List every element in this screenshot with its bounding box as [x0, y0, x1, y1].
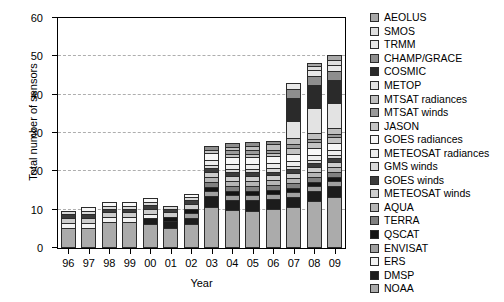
bar-segment[interactable]	[204, 207, 219, 248]
legend-item-label: MTSAT winds	[384, 107, 448, 118]
legend-item[interactable]: CHAMP/GRACE	[370, 52, 504, 66]
bar-segment[interactable]	[225, 210, 240, 248]
legend-item[interactable]: TRMM	[370, 38, 504, 52]
bar-segment[interactable]	[225, 157, 240, 164]
bar-segment[interactable]	[266, 199, 281, 209]
legend-swatch-icon	[370, 189, 379, 198]
x-tick	[150, 248, 151, 254]
bar-column[interactable]	[122, 18, 137, 248]
legend-item[interactable]: JASON	[370, 119, 504, 133]
bar-segment[interactable]	[327, 71, 342, 80]
legend-item-label: METEOSAT radiances	[384, 148, 489, 159]
x-tick-label: 06	[267, 257, 279, 269]
legend-item-label: CHAMP/GRACE	[384, 53, 462, 64]
bar-segment[interactable]	[286, 207, 301, 248]
plot-area: 0102030405060 96979899000102030405060708…	[57, 17, 346, 249]
bar-column[interactable]	[184, 18, 199, 248]
bar-segment[interactable]	[286, 121, 301, 138]
bar-segment[interactable]	[266, 209, 281, 248]
y-tick-label: 20	[31, 165, 43, 177]
bar-segment[interactable]	[307, 148, 322, 155]
bar-segment[interactable]	[327, 186, 342, 196]
legend-item[interactable]: GOES radiances	[370, 133, 504, 147]
bar-segment[interactable]	[307, 201, 322, 248]
legend-item[interactable]: METEOSAT winds	[370, 187, 504, 201]
x-tick-label: 09	[329, 257, 341, 269]
legend-item-label: SMOS	[384, 26, 415, 37]
y-tick-label: 10	[31, 204, 43, 216]
bar-segment[interactable]	[184, 224, 199, 248]
bar-column[interactable]	[327, 18, 342, 248]
bar-segment[interactable]	[286, 98, 301, 121]
legend-item[interactable]: COSMIC	[370, 65, 504, 79]
bar-segment[interactable]	[327, 80, 342, 103]
bar-segment[interactable]	[327, 197, 342, 248]
legend-swatch-icon	[370, 40, 379, 49]
x-tick-label: 04	[226, 257, 238, 269]
bar-segment[interactable]	[286, 197, 301, 207]
bar-column[interactable]	[266, 18, 281, 248]
legend-swatch-icon	[370, 230, 379, 239]
bar-segment[interactable]	[307, 76, 322, 85]
bar-segment[interactable]	[102, 222, 117, 248]
x-tick-label: 97	[83, 257, 95, 269]
bar-column[interactable]	[143, 18, 158, 248]
bar-segment[interactable]	[286, 89, 301, 98]
bar-column[interactable]	[245, 18, 260, 248]
legend-item[interactable]: NOAA	[370, 282, 504, 296]
legend-item[interactable]: MTSAT winds	[370, 106, 504, 120]
bar-segment[interactable]	[245, 211, 260, 249]
bar-segment[interactable]	[143, 224, 158, 248]
legend-item[interactable]: ERS	[370, 255, 504, 269]
legend-swatch-icon	[370, 54, 379, 63]
bar-segment[interactable]	[225, 200, 240, 210]
legend-item[interactable]: METOP	[370, 79, 504, 93]
legend-item[interactable]: AEOLUS	[370, 11, 504, 25]
bar-segment[interactable]	[61, 228, 76, 248]
bar-column[interactable]	[163, 18, 178, 248]
legend-item[interactable]: ENVISAT	[370, 241, 504, 255]
bar-segment[interactable]	[204, 196, 219, 206]
legend-item[interactable]: MTSAT radiances	[370, 92, 504, 106]
legend-item[interactable]: METEOSAT radiances	[370, 146, 504, 160]
legend-item[interactable]: SMOS	[370, 25, 504, 39]
bar-segment[interactable]	[81, 228, 96, 248]
bar-column[interactable]	[225, 18, 240, 248]
x-tick	[212, 248, 213, 254]
legend-item[interactable]: DMSP	[370, 268, 504, 282]
legend-swatch-icon	[370, 203, 379, 212]
bar-segment[interactable]	[307, 85, 322, 108]
bar-column[interactable]	[102, 18, 117, 248]
bar-column[interactable]	[61, 18, 76, 248]
legend-swatch-icon	[370, 149, 379, 158]
x-tick-label: 00	[144, 257, 156, 269]
x-tick-label: 01	[165, 257, 177, 269]
legend-item-label: METEOSAT winds	[384, 188, 471, 199]
bar-segment[interactable]	[327, 103, 342, 127]
bar-column[interactable]	[204, 18, 219, 248]
bar-segment[interactable]	[245, 200, 260, 210]
legend-item-label: ENVISAT	[384, 243, 428, 254]
x-tick	[109, 248, 110, 254]
bar-segment[interactable]	[163, 228, 178, 248]
legend-item[interactable]: AQUA	[370, 201, 504, 215]
legend-item[interactable]: GOES winds	[370, 174, 504, 188]
legend-item[interactable]: GMS winds	[370, 160, 504, 174]
bar-segment[interactable]	[286, 154, 301, 161]
bar-column[interactable]	[286, 18, 301, 248]
bar-segment[interactable]	[327, 143, 342, 150]
bar-segment[interactable]	[266, 156, 281, 163]
bar-segment[interactable]	[122, 222, 137, 248]
x-tick-label: 98	[103, 257, 115, 269]
bar-segment[interactable]	[204, 153, 219, 160]
bar-segment[interactable]	[307, 108, 322, 132]
x-tick	[253, 248, 254, 254]
bar-segment[interactable]	[245, 157, 260, 164]
bar-column[interactable]	[307, 18, 322, 248]
legend-swatch-icon	[370, 216, 379, 225]
bar-column[interactable]	[81, 18, 96, 248]
legend-item[interactable]: QSCAT	[370, 228, 504, 242]
legend-item[interactable]: TERRA	[370, 214, 504, 228]
legend-item-label: GOES winds	[384, 175, 444, 186]
bar-segment[interactable]	[307, 191, 322, 201]
